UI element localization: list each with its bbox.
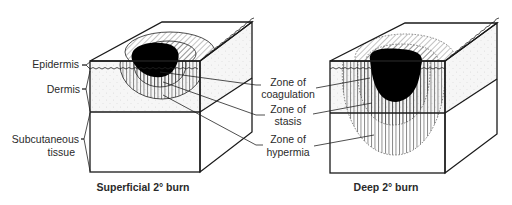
subcutaneous-bracket (81, 113, 90, 171)
label-coagulation-line1: Zone of (270, 76, 306, 88)
label-coagulation-line2: coagulation (261, 88, 315, 100)
label-hypermia-line2: hypermia (266, 146, 309, 158)
label-stasis-line1: Zone of (270, 103, 306, 115)
layer-labels: Epidermis Dermis Subcutaneous tissue (12, 58, 90, 171)
label-stasis-line2: stasis (275, 115, 302, 127)
caption-superficial-burn: Superficial 2° burn (97, 181, 190, 193)
caption-deep-burn: Deep 2° burn (354, 181, 419, 193)
epidermis-bracket (82, 62, 90, 69)
label-dermis: Dermis (47, 83, 80, 95)
label-subcutaneous-line1: Subcutaneous (12, 133, 79, 145)
deep-burn-block (330, 18, 499, 173)
label-subcutaneous-line2: tissue (48, 146, 76, 158)
superficial-burn-block (90, 18, 254, 172)
label-hypermia-line1: Zone of (270, 133, 306, 145)
burn-zones-diagram: Epidermis Dermis Subcutaneous tissue Zon… (0, 0, 512, 205)
dermis-bracket (82, 71, 90, 111)
label-epidermis: Epidermis (32, 58, 79, 70)
